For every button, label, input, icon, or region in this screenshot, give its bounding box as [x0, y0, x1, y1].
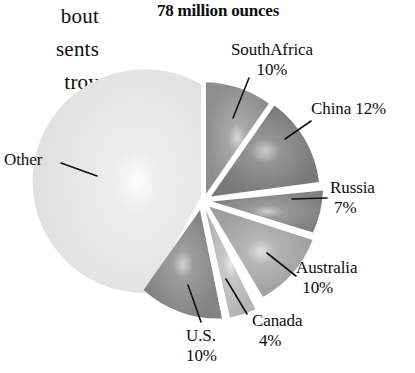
pie-label-southafrica: SouthAfrica 10% — [231, 40, 313, 80]
pie-label-australia: Australia 10% — [296, 258, 357, 298]
pie-label-canada: Canada 4% — [252, 311, 302, 351]
pie-label-china-value: 12% — [355, 99, 386, 118]
leader-line-russia — [292, 198, 327, 199]
pie-label-us-name: U.S. — [186, 326, 217, 346]
pie-label-southafrica-name: SouthAfrica — [231, 40, 313, 60]
pie-label-canada-name: Canada — [252, 311, 302, 331]
pie-label-canada-value: 4% — [252, 331, 302, 351]
pie-label-us-value: 10% — [186, 346, 217, 366]
pie-label-china: China 12% — [311, 99, 386, 119]
pie-label-australia-value: 10% — [296, 278, 357, 298]
pie-label-russia-name: Russia — [330, 178, 375, 198]
pie-label-russia: Russia 7% — [330, 178, 375, 218]
pie-chart: SouthAfrica 10% China 12% Russia 7% Aust… — [0, 0, 415, 373]
pie-label-southafrica-value: 10% — [231, 60, 313, 80]
pie-label-china-name: China — [311, 99, 351, 118]
pie-slices — [33, 69, 323, 318]
pie-label-russia-value: 7% — [330, 198, 375, 218]
pie-label-us: U.S. 10% — [186, 326, 217, 366]
pie-label-australia-name: Australia — [296, 258, 357, 278]
pie-label-other: Other — [4, 150, 42, 170]
pie-label-other-name: Other — [4, 150, 42, 170]
